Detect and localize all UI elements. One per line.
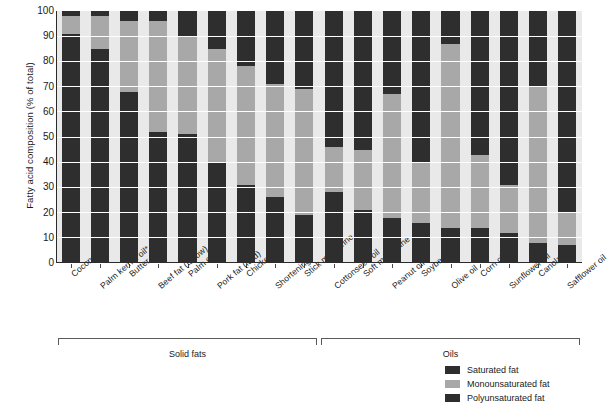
group-label: Solid fats	[58, 349, 316, 359]
bar-segment-monounsaturated-fat	[383, 94, 401, 217]
y-axis-tick-label: 100	[26, 6, 54, 16]
bar-segment-polyunsaturated-fat	[266, 11, 284, 84]
bar-segment-polyunsaturated-fat	[91, 11, 109, 16]
bar-segment-saturated-fat	[295, 215, 313, 263]
bar-segment-polyunsaturated-fat	[441, 11, 459, 44]
y-axis-tick-label: 40	[26, 157, 54, 167]
gridline	[56, 86, 582, 87]
legend-swatch	[445, 366, 460, 374]
bar-segment-polyunsaturated-fat	[208, 11, 226, 49]
bar-segment-saturated-fat	[529, 243, 547, 263]
plot-area	[56, 11, 582, 263]
bar-segment-polyunsaturated-fat	[354, 11, 372, 150]
bar-segment-monounsaturated-fat	[237, 66, 255, 184]
gridline	[56, 61, 582, 62]
bar-segment-saturated-fat	[178, 134, 196, 263]
bar-segment-saturated-fat	[62, 34, 80, 263]
legend-item: Polyunsaturated fat	[445, 391, 550, 405]
legend-swatch	[445, 394, 460, 402]
gridline	[56, 36, 582, 37]
bar-segment-saturated-fat	[237, 185, 255, 263]
y-axis-tick-label: 70	[26, 82, 54, 92]
x-axis-tick	[217, 264, 218, 268]
bar-segment-polyunsaturated-fat	[500, 11, 518, 185]
bar-segment-saturated-fat	[441, 228, 459, 263]
y-axis-tick-label: 80	[26, 56, 54, 66]
x-axis-tick	[158, 264, 159, 268]
bar-segment-polyunsaturated-fat	[295, 11, 313, 89]
bar-segment-polyunsaturated-fat	[325, 11, 343, 147]
bar-segment-polyunsaturated-fat	[237, 11, 255, 66]
bar-segment-monounsaturated-fat	[500, 185, 518, 233]
group-bracket	[58, 338, 316, 345]
bar-segment-polyunsaturated-fat	[149, 11, 167, 21]
x-axis-tick	[392, 264, 393, 268]
y-axis-tick-label: 60	[26, 107, 54, 117]
bar-segment-monounsaturated-fat	[471, 155, 489, 228]
bar-segment-monounsaturated-fat	[149, 21, 167, 132]
bar-segment-saturated-fat	[471, 228, 489, 263]
bar-segment-monounsaturated-fat	[354, 150, 372, 210]
x-axis-tick	[100, 264, 101, 268]
legend-item: Monounsaturated fat	[445, 377, 550, 391]
bar-segment-polyunsaturated-fat	[120, 11, 138, 21]
bar-segment-monounsaturated-fat	[120, 21, 138, 92]
bar-segment-monounsaturated-fat	[529, 87, 547, 243]
bar-segment-saturated-fat	[383, 218, 401, 263]
group-label: Oils	[321, 349, 579, 359]
legend-swatch	[445, 380, 460, 388]
bar-segment-saturated-fat	[91, 49, 109, 263]
bar-segment-monounsaturated-fat	[295, 89, 313, 215]
bar-segment-saturated-fat	[325, 192, 343, 263]
bar-segment-monounsaturated-fat	[266, 84, 284, 197]
y-axis-tick-label: 20	[26, 208, 54, 218]
bar-segment-polyunsaturated-fat	[62, 11, 80, 16]
y-axis-tick-label: 50	[26, 132, 54, 142]
y-axis-tick-label: 10	[26, 233, 54, 243]
legend-item: Saturated fat	[445, 363, 550, 377]
x-axis-tick	[275, 264, 276, 268]
bar-segment-polyunsaturated-fat	[471, 11, 489, 155]
bar-segment-monounsaturated-fat	[412, 162, 430, 222]
y-axis-tick-label: 90	[26, 31, 54, 41]
legend-label: Saturated fat	[467, 365, 519, 375]
bar-segment-saturated-fat	[266, 197, 284, 263]
bar-segment-polyunsaturated-fat	[178, 11, 196, 36]
legend-label: Monounsaturated fat	[467, 379, 550, 389]
y-axis-tick-label: 30	[26, 182, 54, 192]
gridline	[56, 237, 582, 238]
legend: Saturated fatMonounsaturated fatPolyunsa…	[445, 363, 550, 405]
x-axis-tick	[509, 264, 510, 268]
bar-segment-monounsaturated-fat	[62, 16, 80, 34]
legend-label: Polyunsaturated fat	[467, 393, 545, 403]
gridline	[56, 212, 582, 213]
bar-segment-monounsaturated-fat	[91, 16, 109, 49]
bar-segment-polyunsaturated-fat	[529, 11, 547, 87]
gridline	[56, 162, 582, 163]
gridline	[56, 187, 582, 188]
x-axis-tick	[334, 264, 335, 268]
gridline	[56, 137, 582, 138]
bar-segment-saturated-fat	[558, 245, 576, 263]
x-axis-tick	[567, 264, 568, 268]
x-axis-label: Olive oil	[449, 263, 480, 291]
x-axis-tick	[451, 264, 452, 268]
bar-segment-monounsaturated-fat	[325, 147, 343, 192]
bar-segment-saturated-fat	[412, 223, 430, 263]
bar-segment-saturated-fat	[149, 132, 167, 263]
y-axis-tick-label: 0	[26, 258, 54, 268]
gridline	[56, 111, 582, 112]
group-bracket	[321, 338, 579, 345]
bar-segment-monounsaturated-fat	[208, 49, 226, 162]
bar-segment-monounsaturated-fat	[558, 213, 576, 246]
bar-segment-polyunsaturated-fat	[383, 11, 401, 94]
